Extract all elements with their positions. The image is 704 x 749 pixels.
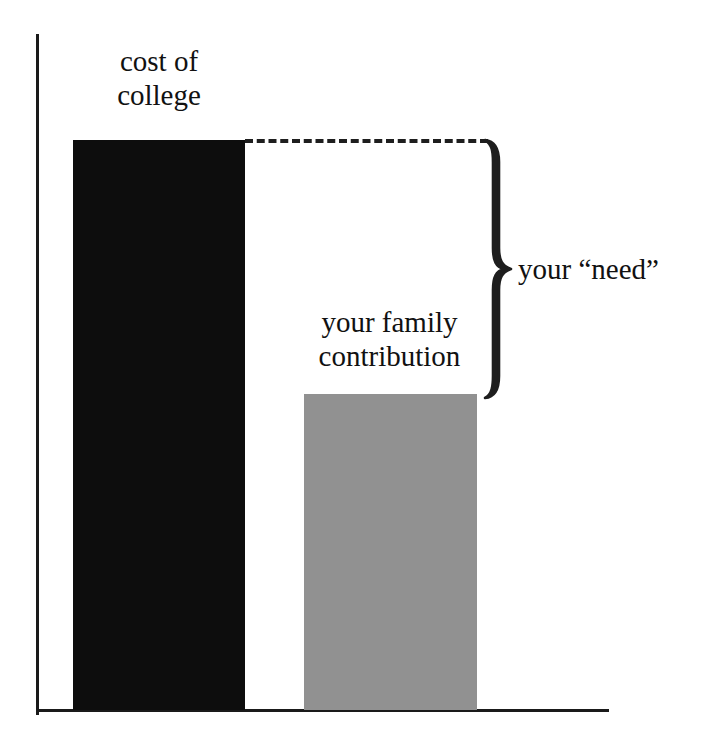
bar-family-contribution [304,394,477,710]
y-axis-line [36,34,39,715]
label-cost-of-college: cost of college [73,44,245,112]
dashed-line-icon [245,139,488,143]
label-family-contribution: your family contribution [297,305,482,373]
bar-cost-of-college [73,140,245,710]
need-chart: cost of college your family contribution… [0,0,704,749]
curly-brace-icon [479,136,519,402]
label-your-need: your “need” [518,252,659,286]
